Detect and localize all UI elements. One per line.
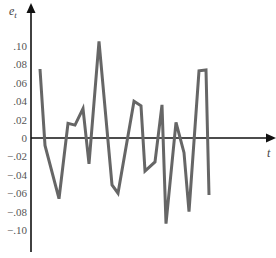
x-axis-arrow-icon [266, 134, 276, 143]
y-tick-label: .04 [13, 95, 27, 107]
y-tick-label: .08 [13, 58, 27, 70]
y-axis-arrow-icon [27, 3, 36, 13]
y-tick-label: .06 [13, 77, 27, 89]
y-tick-label: 0 [22, 132, 28, 144]
y-tick-label: −.06 [7, 187, 27, 199]
y-tick-labels: .10.08.06.04.020−.02−.04−.06−.08−.10 [7, 40, 27, 236]
y-tick-label: .10 [13, 40, 27, 52]
y-tick-label: .02 [13, 114, 27, 126]
y-axis-label: et [9, 4, 17, 20]
y-tick-label: −.02 [7, 150, 27, 162]
residual-chart: .10.08.06.04.020−.02−.04−.06−.08−.10 et … [0, 0, 276, 258]
residual-series-line [40, 41, 209, 223]
y-tick-label: −.04 [7, 169, 27, 181]
x-axis-label: t [267, 146, 271, 160]
y-tick-label: −.10 [7, 224, 27, 236]
y-tick-label: −.08 [7, 206, 27, 218]
